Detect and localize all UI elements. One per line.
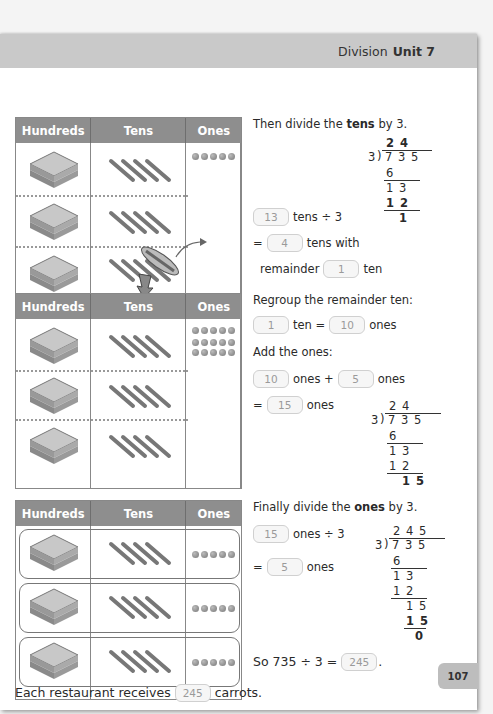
header-ones: Ones — [186, 118, 241, 143]
header-tens: Tens — [91, 118, 186, 143]
header-hundreds: Hundreds — [16, 501, 91, 526]
conclusion-line: So 735 ÷ 3 =245. — [253, 653, 382, 671]
long-division-2: 2 4 3 ) 7 3 5 6 1 3 1 2 1 5 — [371, 399, 451, 489]
row-divider — [16, 419, 188, 421]
ones-cubes — [192, 551, 235, 558]
ten-rods-icon — [108, 158, 174, 184]
ten-rods-icon — [108, 649, 174, 675]
ones-cubes — [192, 339, 235, 346]
step1-instruction: Then divide the tens by 3. — [253, 117, 407, 131]
hundred-flat-icon — [28, 533, 80, 573]
table-header: Hundreds Tens Ones — [16, 294, 241, 319]
chapter-title: Division — [338, 44, 388, 59]
ones-cubes — [192, 605, 235, 612]
add-instruction: Add the ones: — [253, 345, 333, 359]
add-line: 10ones +5ones — [253, 370, 405, 388]
step1-line1: 13tens ÷ 3 — [253, 208, 342, 226]
answer-box: 245 — [341, 653, 377, 671]
header-ones: Ones — [186, 501, 241, 526]
textbook-page: Division Unit 7 Hundreds Tens Ones Then … — [0, 34, 477, 710]
table-header: Hundreds Tens Ones — [16, 501, 241, 526]
place-value-table-3: Hundreds Tens Ones — [15, 500, 242, 700]
step1-line3: remainder1ten — [260, 260, 382, 278]
regroup-instruction: Regroup the remainder ten: — [253, 293, 413, 307]
long-division-1: 2 4 3 ) 7 3 5 6 1 3 1 2 1 — [368, 136, 448, 226]
ones-cubes — [192, 327, 235, 334]
step3-line2: =5ones — [253, 558, 334, 576]
hundred-flat-icon — [28, 150, 80, 190]
hundred-flat-icon — [28, 254, 80, 294]
ten-rods-icon — [108, 541, 174, 567]
step3-instruction: Finally divide the ones by 3. — [253, 500, 417, 514]
header-ones: Ones — [186, 294, 241, 319]
table-header: Hundreds Tens Ones — [16, 118, 241, 143]
row-divider — [16, 195, 188, 197]
header-tens: Tens — [91, 294, 186, 319]
answer-box: 13 — [253, 208, 289, 226]
ones-cubes — [192, 659, 235, 666]
hundred-flat-icon — [28, 641, 80, 681]
ten-rods-icon — [108, 595, 174, 621]
hundred-flat-icon — [28, 587, 80, 627]
header-hundreds: Hundreds — [16, 118, 91, 143]
answer-box: 10 — [329, 316, 365, 334]
hundred-flat-icon — [28, 376, 80, 416]
unit-header: Division Unit 7 — [0, 34, 477, 68]
ten-rods-icon — [108, 434, 174, 460]
answer-box: 5 — [267, 558, 303, 576]
step1-line2: =4tens with — [253, 234, 360, 252]
answer-box: 10 — [253, 370, 289, 388]
answer-box: 15 — [267, 396, 303, 414]
header-hundreds: Hundreds — [16, 294, 91, 319]
page-number: 107 — [438, 663, 478, 689]
answer-box: 4 — [267, 234, 303, 252]
answer-box: 245 — [175, 684, 211, 702]
ones-cubes — [192, 153, 235, 160]
long-division-3: 2 4 5 3 ) 7 3 5 6 1 3 1 2 1 5 1 5 0 — [375, 524, 455, 654]
ten-rods-icon — [108, 334, 174, 360]
step3-line1: 15ones ÷ 3 — [253, 525, 345, 543]
answer-box: 1 — [323, 260, 359, 278]
final-answer-line: Each restaurant receives245carrots. — [15, 684, 262, 702]
row-divider — [16, 370, 188, 372]
unit-label: Unit 7 — [393, 44, 435, 59]
regroup-line: 1ten =10ones — [253, 316, 397, 334]
ten-rods-icon — [108, 384, 174, 410]
answer-box: 1 — [253, 316, 289, 334]
hundred-flat-icon — [28, 426, 80, 466]
hundred-flat-icon — [28, 202, 80, 242]
sum-line: =15ones — [253, 396, 334, 414]
ones-cubes — [192, 349, 235, 356]
answer-box: 5 — [338, 370, 374, 388]
answer-box: 15 — [253, 525, 289, 543]
hundred-flat-icon — [28, 326, 80, 366]
place-value-table-2: Hundreds Tens Ones — [15, 293, 242, 489]
header-tens: Tens — [91, 501, 186, 526]
